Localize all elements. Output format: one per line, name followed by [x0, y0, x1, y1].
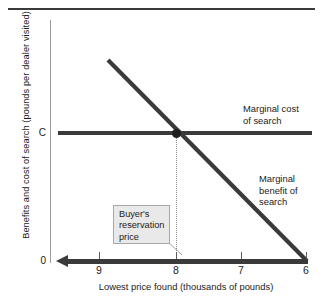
marginal-cost-label-line2: of search	[243, 115, 299, 127]
x-tick-label-6: 6	[296, 264, 316, 276]
marginal-benefit-label-line3: search	[259, 196, 298, 208]
x-axis-title: Lowest price found (thousands of pounds)	[50, 281, 322, 292]
reservation-price-dropline	[176, 136, 177, 261]
x-tick-mark-8	[176, 252, 177, 259]
marginal-cost-curve	[58, 131, 312, 135]
x-tick-label-7: 7	[231, 264, 251, 276]
callout-line2: reservation	[119, 220, 169, 231]
curves-svg-layer	[0, 0, 328, 297]
reservation-price-callout-box: Buyer's reservation price	[113, 205, 170, 244]
marginal-benefit-label-line1: Marginal	[259, 173, 298, 185]
callout-line3: price	[119, 232, 169, 243]
equilibrium-point-marker	[172, 129, 181, 138]
x-tick-label-9: 9	[89, 264, 109, 276]
figure-container: Benefits and cost of search (pounds per …	[0, 0, 328, 297]
marginal-benefit-label: Marginal benefit of search	[259, 173, 298, 208]
x-tick-mark-7	[241, 252, 242, 259]
x-tick-mark-9	[99, 252, 100, 259]
marginal-cost-label-line1: Marginal cost	[243, 103, 299, 115]
x-tick-mark-6	[306, 252, 307, 259]
x-axis-left-arrowhead-icon	[56, 255, 68, 267]
x-tick-label-8: 8	[166, 264, 186, 276]
marginal-cost-label: Marginal cost of search	[243, 103, 299, 126]
marginal-benefit-label-line2: benefit of	[259, 185, 298, 197]
callout-line1: Buyer's	[119, 209, 169, 220]
